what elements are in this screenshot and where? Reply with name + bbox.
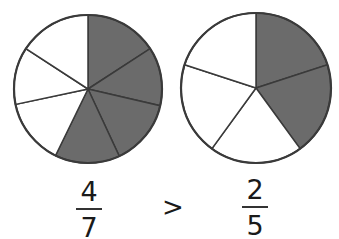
- left-fraction-bar: [76, 208, 102, 210]
- pie-charts: [0, 0, 339, 175]
- left-pie-chart: [14, 15, 162, 163]
- left-numerator: 4: [76, 178, 102, 205]
- right-fraction-bar: [242, 206, 268, 208]
- right-fraction: 2 5: [242, 176, 268, 238]
- left-denominator: 7: [76, 214, 102, 239]
- right-pie-chart: [181, 13, 331, 163]
- right-numerator: 2: [242, 176, 268, 203]
- comparison-operator: >: [162, 192, 184, 222]
- right-denominator: 5: [242, 212, 268, 239]
- left-fraction: 4 7: [76, 178, 102, 238]
